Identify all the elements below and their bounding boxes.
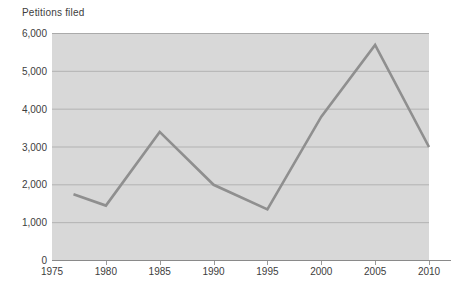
chart-title: Petitions filed <box>22 7 84 18</box>
x-tick-mark <box>106 261 107 265</box>
y-axis-label: 3,000 <box>8 142 47 153</box>
x-axis-line <box>52 260 451 261</box>
x-tick-mark <box>267 261 268 265</box>
x-axis-label: 1980 <box>86 266 126 277</box>
x-axis-label: 2000 <box>301 266 341 277</box>
x-tick-mark <box>214 261 215 265</box>
y-axis-label: 2,000 <box>8 179 47 190</box>
chart-canvas <box>52 33 429 261</box>
y-axis-label: 6,000 <box>8 28 47 39</box>
y-axis-label: 5,000 <box>8 66 47 77</box>
x-tick-mark <box>160 261 161 265</box>
x-axis-label: 1995 <box>247 266 287 277</box>
y-axis-label: 4,000 <box>8 104 47 115</box>
x-axis-label: 1990 <box>194 266 234 277</box>
x-axis-label: 1975 <box>32 266 72 277</box>
x-tick-mark <box>375 261 376 265</box>
x-axis-label: 2005 <box>355 266 395 277</box>
x-tick-mark <box>429 261 430 265</box>
plot-area <box>52 33 429 261</box>
x-axis-label: 1985 <box>140 266 180 277</box>
x-tick-mark <box>321 261 322 265</box>
y-axis-label: 1,000 <box>8 217 47 228</box>
x-axis-label: 2010 <box>409 266 449 277</box>
line-chart: Petitions filed 01,0002,0003,0004,0005,0… <box>0 0 472 298</box>
y-axis-label: 0 <box>8 255 47 266</box>
